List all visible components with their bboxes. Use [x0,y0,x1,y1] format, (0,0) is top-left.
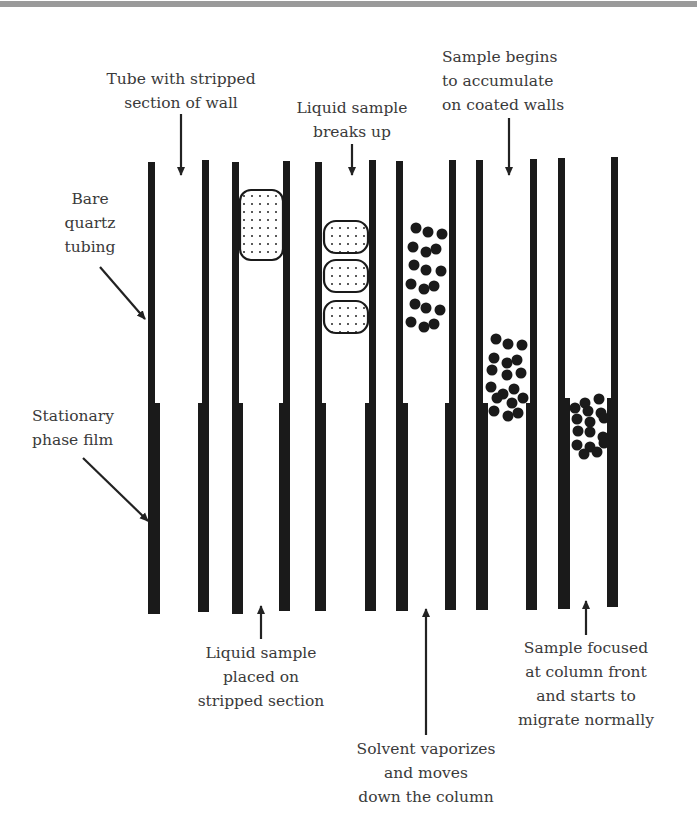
stationary-phase-film [198,403,209,612]
label-bare-quartz: Bare quartz tubing [50,187,130,259]
column-4-solvent-vaporizes [396,160,456,611]
stationary-phase-film [526,403,537,610]
arrow-stationary-phase [83,458,148,521]
stationary-phase-film [445,403,456,610]
stationary-phase-film [365,403,376,611]
liquid-sample-plug [240,190,283,260]
liquid-plug-fragment [324,260,368,292]
stationary-phase-film [607,398,618,607]
stationary-phase-film [279,403,290,611]
stationary-phase-film [396,403,408,611]
label-stationary-phase: Stationary phase film [32,404,132,452]
stationary-phase-film [315,403,326,611]
column-6-sample-focused [558,157,618,609]
label-sample-focused: Sample focused at column front and start… [506,636,666,732]
stationary-phase-film [232,403,243,614]
column-3-liquid-breaks-up [315,160,376,611]
stationary-phase-film [148,403,160,614]
sample-droplets [486,334,529,422]
arrow-bare-quartz [100,267,145,319]
column-1-stripped-tube [148,160,209,614]
label-liquid-breaks: Liquid sample breaks up [282,96,422,144]
label-sample-accumulate: Sample begins to accumulate on coated wa… [442,45,582,117]
stationary-phase-film [476,403,488,610]
liquid-plug-fragment [324,221,368,253]
label-solvent-vaporizes: Solvent vaporizes and moves down the col… [346,737,506,809]
liquid-plug-fragment [324,301,368,333]
sample-droplets [406,223,448,333]
column-5-sample-accumulates [476,159,537,610]
focused-sample-band [570,394,610,460]
label-tube-stripped: Tube with stripped section of wall [96,67,266,115]
column-2-liquid-placed [232,161,290,614]
stationary-phase-film [558,398,570,609]
label-liquid-placed: Liquid sample placed on stripped section [186,641,336,713]
